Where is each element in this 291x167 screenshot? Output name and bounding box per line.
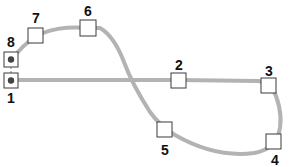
node-label: 6 — [84, 3, 92, 19]
dot-icon — [8, 77, 14, 83]
node-8[interactable]: 8 — [4, 34, 18, 67]
node-4[interactable]: 4 — [266, 134, 281, 167]
node-2[interactable]: 2 — [171, 57, 186, 88]
node-label: 1 — [7, 90, 15, 106]
dot-icon — [8, 56, 14, 62]
node-label: 8 — [7, 34, 15, 50]
node-3[interactable]: 3 — [261, 63, 276, 93]
node-6[interactable]: 6 — [80, 3, 96, 36]
track-diagram: 1 2 3 4 5 6 7 8 — [0, 0, 291, 167]
node-label: 3 — [265, 63, 273, 79]
node-5[interactable]: 5 — [157, 122, 172, 158]
node-1[interactable]: 1 — [4, 73, 18, 106]
track-line — [17, 28, 281, 154]
node-label: 5 — [161, 142, 169, 158]
node-label: 4 — [271, 152, 279, 167]
node-label: 2 — [175, 57, 183, 73]
node-label: 7 — [32, 10, 40, 26]
node-7[interactable]: 7 — [28, 10, 43, 43]
